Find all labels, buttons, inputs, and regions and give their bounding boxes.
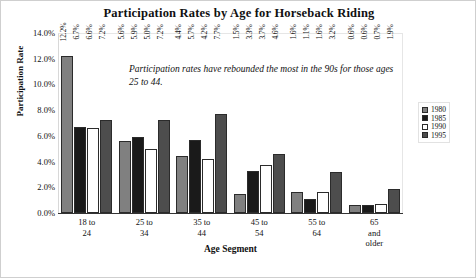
bar-value-label: 12.2%: [59, 23, 68, 42]
bar-wrapper: 1.9%: [388, 33, 400, 213]
legend-swatch-icon: [422, 115, 428, 121]
bar-wrapper: 6.6%: [87, 33, 99, 213]
bar-1980-25-to-34[interactable]: [119, 141, 131, 213]
bar-wrapper: 1.6%: [317, 33, 329, 213]
bar-value-label: 1.6%: [315, 24, 324, 39]
legend-item-1980[interactable]: 1980: [422, 106, 446, 114]
bar-value-label: 5.7%: [187, 24, 196, 39]
bar-1980-18-to-24[interactable]: [61, 56, 73, 213]
legend-item-1990[interactable]: 1990: [422, 123, 446, 131]
bar-value-label: 7.2%: [98, 24, 107, 39]
bar-group: 1.6%1.1%1.6%3.2%: [288, 33, 346, 213]
bar-1995-35-to-44[interactable]: [215, 114, 227, 213]
legend-item-1995[interactable]: 1995: [422, 132, 446, 140]
bar-value-label: 0.7%: [373, 24, 382, 39]
bar-group: 4.4%5.7%4.2%7.7%: [173, 33, 231, 213]
bar-wrapper: 12.2%: [61, 33, 73, 213]
legend-label: 1990: [431, 123, 446, 131]
bar-1985-25-to-34[interactable]: [132, 137, 144, 213]
y-axis-tick-label: 6.0%: [3, 131, 55, 141]
bar-wrapper: 6.7%: [74, 33, 86, 213]
bar-value-label: 1.6%: [289, 24, 298, 39]
bar-1985-55-to-64[interactable]: [304, 199, 316, 213]
y-axis-tick-label: 14.0%: [3, 28, 55, 38]
bar-wrapper: 3.3%: [247, 33, 259, 213]
bar-1985-45-to-54[interactable]: [247, 171, 259, 213]
bar-1995-55-to-64[interactable]: [330, 172, 342, 213]
bar-group: 12.2%6.7%6.6%7.2%: [58, 33, 116, 213]
bar-wrapper: 1.6%: [291, 33, 303, 213]
legend-label: 1985: [431, 115, 446, 123]
bar-1990-65-and-older[interactable]: [375, 204, 387, 213]
bar-value-label: 5.0%: [143, 24, 152, 39]
legend-label: 1980: [431, 106, 446, 114]
bar-wrapper: 0.7%: [375, 33, 387, 213]
bar-wrapper: 3.2%: [330, 33, 342, 213]
legend-swatch-icon: [422, 107, 428, 113]
bar-value-label: 1.9%: [386, 24, 395, 39]
y-axis-tick-label: 12.0%: [3, 54, 55, 64]
legend-swatch-icon: [422, 124, 428, 130]
bar-1990-45-to-54[interactable]: [260, 165, 272, 213]
bar-1980-45-to-54[interactable]: [234, 194, 246, 213]
bar-1990-18-to-24[interactable]: [87, 128, 99, 213]
bar-wrapper: 1.5%: [234, 33, 246, 213]
bar-wrapper: 1.1%: [304, 33, 316, 213]
bar-value-label: 0.6%: [347, 24, 356, 39]
bar-wrapper: 4.2%: [202, 33, 214, 213]
bar-1980-35-to-44[interactable]: [176, 156, 188, 213]
bar-wrapper: 3.7%: [260, 33, 272, 213]
bar-value-label: 4.6%: [271, 24, 280, 39]
bar-1980-65-and-older[interactable]: [349, 205, 361, 213]
bar-wrapper: 5.0%: [145, 33, 157, 213]
bar-value-label: 7.2%: [156, 24, 165, 39]
chart-legend: 1980198519901995: [418, 102, 450, 143]
y-axis-ticks: 14.0%12.0%10.0%8.0%6.0%4.0%2.0%0.0%: [1, 33, 55, 213]
bars-layer: 12.2%6.7%6.6%7.2%5.6%5.9%5.0%7.2%4.4%5.7…: [58, 33, 403, 213]
bar-1985-65-and-older[interactable]: [362, 205, 374, 213]
bar-wrapper: 4.6%: [273, 33, 285, 213]
bar-1995-45-to-54[interactable]: [273, 154, 285, 213]
bar-wrapper: 5.9%: [132, 33, 144, 213]
bar-value-label: 4.4%: [174, 24, 183, 39]
bar-value-label: 3.2%: [328, 24, 337, 39]
bar-value-label: 6.7%: [72, 24, 81, 39]
bar-1995-25-to-34[interactable]: [158, 120, 170, 213]
bar-1980-55-to-64[interactable]: [291, 192, 303, 213]
bar-value-label: 3.3%: [245, 24, 254, 39]
bar-1990-25-to-34[interactable]: [145, 149, 157, 213]
chart-frame: Participation Rates by Age for Horseback…: [0, 0, 476, 278]
bar-1990-35-to-44[interactable]: [202, 159, 214, 213]
y-axis-tick-label: 2.0%: [3, 182, 55, 192]
bar-1985-18-to-24[interactable]: [74, 127, 86, 213]
bar-value-label: 4.2%: [200, 24, 209, 39]
bar-group: 5.6%5.9%5.0%7.2%: [116, 33, 174, 213]
bar-value-label: 7.7%: [213, 24, 222, 39]
bar-wrapper: 0.6%: [362, 33, 374, 213]
bar-1990-55-to-64[interactable]: [317, 192, 329, 213]
y-axis-tick-label: 10.0%: [3, 79, 55, 89]
bar-wrapper: 7.7%: [215, 33, 227, 213]
bar-group: 1.5%3.3%3.7%4.6%: [231, 33, 289, 213]
x-axis-title: Age Segment: [58, 244, 403, 254]
bar-wrapper: 4.4%: [176, 33, 188, 213]
y-axis-tick-label: 8.0%: [3, 105, 55, 115]
y-axis-tick-label: 4.0%: [3, 157, 55, 167]
bar-wrapper: 0.6%: [349, 33, 361, 213]
y-axis-tick-label: 0.0%: [3, 208, 55, 218]
bar-value-label: 5.6%: [117, 24, 126, 39]
bar-wrapper: 7.2%: [158, 33, 170, 213]
bar-value-label: 1.1%: [302, 24, 311, 39]
bar-1985-35-to-44[interactable]: [189, 140, 201, 213]
bar-1995-65-and-older[interactable]: [388, 189, 400, 213]
legend-swatch-icon: [422, 132, 428, 138]
bar-value-label: 5.9%: [130, 24, 139, 39]
bar-value-label: 1.5%: [232, 24, 241, 39]
legend-label: 1995: [431, 132, 446, 140]
bar-value-label: 0.6%: [360, 24, 369, 39]
bar-value-label: 6.6%: [85, 24, 94, 39]
x-axis-line: [58, 213, 403, 214]
legend-item-1985[interactable]: 1985: [422, 115, 446, 123]
bar-group: 0.6%0.6%0.7%1.9%: [346, 33, 404, 213]
bar-1995-18-to-24[interactable]: [100, 120, 112, 213]
